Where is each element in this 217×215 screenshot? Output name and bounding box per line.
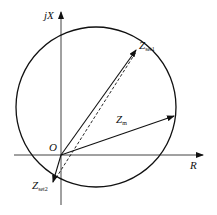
zset1-vector: [61, 50, 136, 155]
zm-label: Zm: [116, 114, 127, 126]
zset2-label: Zset2: [32, 180, 48, 192]
jx-axis-label: jX: [44, 10, 54, 21]
zset1-label: Zset1: [139, 40, 155, 52]
origin-label: O: [49, 142, 57, 153]
impedance-diagram: jX R O Zset1 Zm Zset2: [0, 0, 217, 215]
r-axis-label: R: [190, 160, 197, 171]
